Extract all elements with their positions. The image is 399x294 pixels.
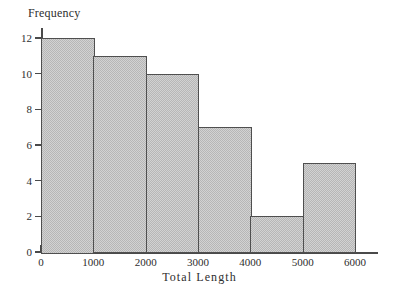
histogram-bar (93, 56, 147, 254)
bars-layer (0, 0, 399, 294)
histogram-bar (146, 74, 200, 254)
histogram-bar (41, 38, 95, 254)
histogram-bar (250, 216, 304, 253)
x-axis-title: Total Length (0, 270, 399, 284)
histogram-bar (303, 163, 357, 254)
histogram-bar (198, 127, 252, 253)
histogram-chart: Frequency 024681012 01000200030004000500… (0, 0, 399, 294)
